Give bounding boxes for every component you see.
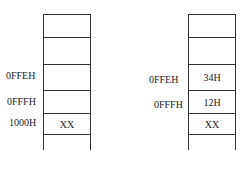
memory-cell — [44, 64, 90, 90]
memory-cell: XX — [44, 113, 90, 134]
memory-cell — [44, 37, 90, 64]
address-label: 0FFFH — [7, 96, 36, 107]
memory-cell-open — [44, 134, 90, 151]
memory-cell: 34H — [189, 64, 235, 90]
address-label: 0FFEH — [149, 74, 178, 85]
address-label: 0FFEH — [6, 70, 35, 81]
left-memory-stack: XX — [43, 14, 91, 150]
right-memory-stack: 34H 12H XX — [188, 14, 236, 150]
address-label: 0FFFH — [154, 99, 183, 110]
memory-cell: XX — [189, 113, 235, 134]
memory-cell — [44, 14, 90, 37]
address-label: 1000H — [9, 117, 36, 128]
memory-cell — [189, 14, 235, 37]
memory-cell: 12H — [189, 90, 235, 113]
memory-cell — [44, 90, 90, 113]
memory-cell-open — [189, 134, 235, 151]
memory-cell — [189, 37, 235, 64]
